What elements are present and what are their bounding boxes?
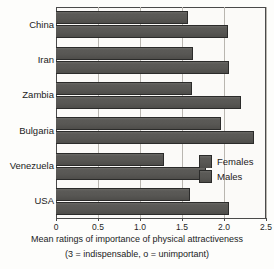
category-label-iran: Iran [0, 54, 54, 65]
tick-mark [56, 218, 57, 221]
bar-chart: ChinaIranZambiaBulgariaVenezuelaUSA 00.5… [0, 0, 274, 269]
tick-label-2.0: 2.0 [218, 222, 230, 232]
bar-china-females [56, 11, 188, 24]
bar-fill [56, 153, 164, 166]
legend-swatch-females-icon [199, 155, 212, 168]
category-label-bulgaria: Bulgaria [0, 125, 54, 136]
tick-mark [266, 218, 267, 221]
bar-venezuela-females [56, 153, 164, 166]
bar-fill [56, 96, 241, 109]
bar-fill [56, 188, 190, 201]
bar-fill [56, 47, 193, 60]
bar-fill [56, 61, 229, 74]
bar-bulgaria-males [56, 131, 254, 144]
category-label-venezuela: Venezuela [0, 160, 54, 171]
category-label-usa: USA [0, 195, 54, 206]
x-axis-ticks: 00.51.01.52.02.5 [56, 221, 266, 235]
bar-fill [56, 11, 188, 24]
legend-item-females: Females [199, 154, 273, 169]
legend-item-males: Males [199, 169, 273, 184]
x-axis-title: Mean ratings of importance of physical a… [0, 234, 274, 244]
bar-fill [56, 82, 192, 95]
bar-venezuela-males [56, 167, 206, 180]
bar-bulgaria-females [56, 117, 221, 130]
bar-china-males [56, 25, 228, 38]
tick-mark [224, 218, 225, 221]
bar-fill [56, 202, 229, 215]
tick-label-1.5: 1.5 [176, 222, 188, 232]
tick-mark [98, 218, 99, 221]
legend: Females Males [199, 154, 273, 184]
bar-zambia-males [56, 96, 241, 109]
x-axis-subtitle: (3 = indispensable, o = unimportant) [0, 249, 274, 259]
tick-label-2.5: 2.5 [260, 222, 272, 232]
bar-fill [56, 131, 254, 144]
legend-label-males: Males [217, 171, 242, 182]
legend-swatch-males-icon [199, 170, 212, 183]
legend-label-females: Females [217, 156, 253, 167]
tick-mark [182, 218, 183, 221]
tick-label-1.0: 1.0 [134, 222, 146, 232]
gridline [266, 7, 267, 219]
bar-zambia-females [56, 82, 192, 95]
category-label-zambia: Zambia [0, 89, 54, 100]
bar-usa-males [56, 202, 229, 215]
tick-mark [140, 218, 141, 221]
tick-label-0: 0 [54, 222, 59, 232]
bar-usa-females [56, 188, 190, 201]
category-label-china: China [0, 19, 54, 30]
bar-fill [56, 167, 206, 180]
gridline [224, 7, 225, 219]
bar-iran-females [56, 47, 193, 60]
tick-label-0.5: 0.5 [92, 222, 104, 232]
bar-fill [56, 117, 221, 130]
bar-iran-males [56, 61, 229, 74]
bar-fill [56, 25, 228, 38]
